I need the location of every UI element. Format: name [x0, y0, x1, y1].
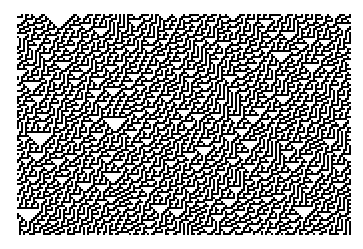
figure-page — [0, 0, 363, 249]
cellular-automaton-canvas — [17, 14, 351, 235]
